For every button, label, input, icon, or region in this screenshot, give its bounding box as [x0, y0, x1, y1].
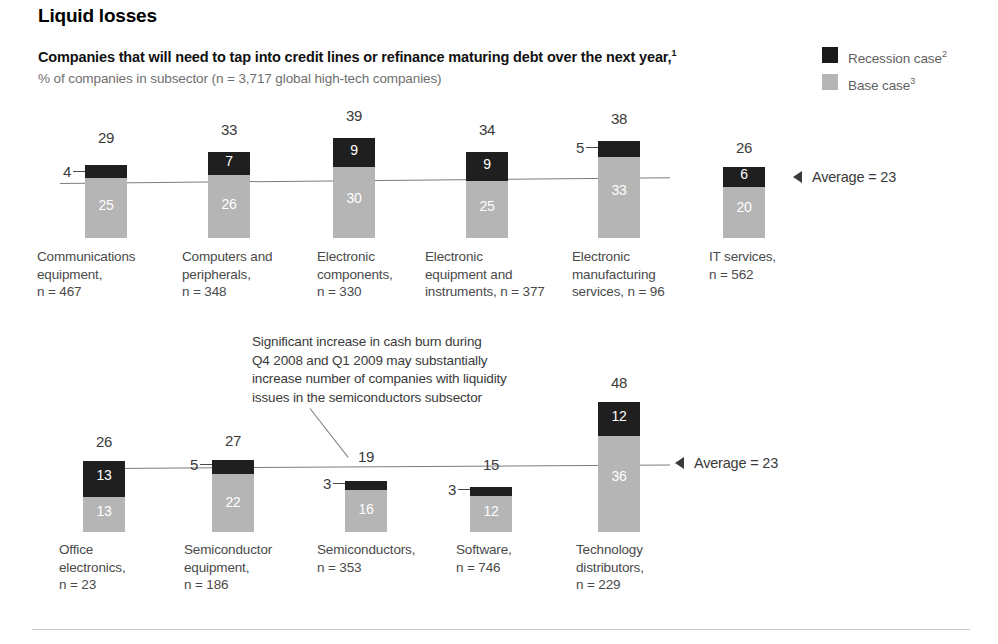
bar-2-category-line-3: n = 348 [182, 283, 312, 301]
chart-headline-text: Companies that will need to tap into cre… [38, 49, 671, 65]
bar-9-category-label: Semiconductors, n = 353 [317, 541, 447, 576]
bar-10-recession-value: 3 [430, 481, 456, 498]
bar-10-category-line-1: Software, [456, 541, 576, 559]
bar-9-category-line-1: Semiconductors, [317, 541, 447, 559]
bar-11-base-value: 36 [598, 468, 640, 484]
bar-11-category-line-1: Technology [576, 541, 706, 559]
bar-9-base-value: 16 [345, 501, 387, 517]
bar-5-category-label: Electronic manufacturing services, n = 9… [572, 248, 712, 301]
legend-swatch-recession-icon [822, 47, 838, 63]
bar-1-base-value: 25 [85, 197, 127, 213]
chart-legend: Recession case2 Base case3 [822, 47, 947, 100]
bar-5-total: 38 [589, 110, 649, 127]
average-label-2: Average = 23 [694, 455, 778, 471]
bar-11-recession-value: 12 [598, 408, 640, 424]
bar-6-category-label: IT services, n = 562 [709, 248, 829, 283]
bar-1-leader-line [73, 171, 85, 172]
average-arrow-1-icon [793, 171, 802, 183]
bar-5-recession-value: 5 [558, 139, 584, 156]
bar-7-base-value: 13 [83, 503, 125, 519]
bar-3-total: 39 [324, 107, 384, 124]
legend-item-base: Base case3 [822, 74, 947, 93]
exhibit-title: Liquid losses [38, 5, 157, 27]
bar-8-recession-value: 5 [172, 456, 198, 473]
bar-11-total: 48 [589, 374, 649, 391]
bar-8-base-value: 22 [212, 494, 254, 510]
bar-4-category-line-2: equipment and [425, 266, 585, 284]
bar-7-recession-value: 13 [83, 467, 125, 483]
bar-7-category-line-1: Office [59, 541, 179, 559]
bar-10-category-label: Software, n = 746 [456, 541, 576, 576]
callout-line-1: Significant increase in cash burn during [252, 333, 562, 352]
bar-7-category-line-3: n = 23 [59, 576, 179, 594]
bar-6-recession-value: 6 [723, 166, 765, 182]
bar-8-category-line-2: equipment, [184, 559, 314, 577]
callout-line-2: Q4 2008 and Q1 2009 may substantially [252, 352, 562, 371]
bar-5-category-line-2: manufacturing [572, 266, 712, 284]
callout-line-3: increase number of companies with liquid… [252, 370, 562, 389]
bottom-divider [32, 629, 970, 630]
bar-11-category-line-3: n = 229 [576, 576, 706, 594]
bar-4-recession-value: 9 [466, 156, 508, 172]
bar-5-category-line-1: Electronic [572, 248, 712, 266]
bar-2-category-label: Computers and peripherals, n = 348 [182, 248, 312, 301]
average-arrow-2-icon [675, 457, 684, 469]
legend-swatch-base-icon [822, 74, 838, 90]
bar-4-total: 34 [457, 121, 517, 138]
bar-10-segment-recession [470, 487, 512, 496]
bar-10-base-value: 12 [470, 503, 512, 519]
bar-2-total: 33 [199, 121, 259, 138]
callout-line-4: issues in the semiconductors subsector [252, 389, 562, 408]
bar-5-category-line-3: services, n = 96 [572, 283, 712, 301]
bar-11-category-line-2: distributors, [576, 559, 706, 577]
chart-headline: Companies that will need to tap into cre… [38, 48, 676, 65]
chart-headline-footnote: 1 [671, 48, 676, 58]
bar-2-category-line-1: Computers and [182, 248, 312, 266]
bar-4-category-label: Electronic equipment and instruments, n … [425, 248, 585, 301]
bar-6-total: 26 [714, 139, 774, 156]
bar-7-category-label: Office electronics, n = 23 [59, 541, 179, 594]
bar-9-leader-line [333, 483, 345, 484]
bar-1-category-label: Communications equipment, n = 467 [37, 248, 167, 301]
bar-9-category-line-2: n = 353 [317, 559, 447, 577]
legend-label-recession-footnote: 2 [942, 49, 947, 59]
average-label-1: Average = 23 [812, 169, 896, 185]
bar-8-category-line-3: n = 186 [184, 576, 314, 594]
bar-10-total: 15 [461, 456, 521, 473]
bar-11-segment-base [598, 436, 640, 532]
bar-5-segment-recession [598, 141, 640, 157]
bar-8-total: 27 [203, 432, 263, 449]
bar-10-category-line-2: n = 746 [456, 559, 576, 577]
bar-1-category-line-2: equipment, [37, 266, 167, 284]
legend-label-base: Base case3 [848, 74, 915, 93]
bar-8-category-line-1: Semiconductor [184, 541, 314, 559]
chart-subhead: % of companies in subsector (n = 3,717 g… [38, 71, 442, 86]
bar-6-base-value: 20 [723, 199, 765, 215]
exhibit-canvas: Liquid losses Companies that will need t… [0, 0, 998, 644]
bar-8-segment-recession [212, 460, 254, 474]
legend-label-base-text: Base case [848, 77, 910, 92]
legend-label-recession-text: Recession case [848, 51, 942, 66]
bar-5-base-value: 33 [598, 182, 640, 198]
bar-8-leader-line [200, 464, 212, 465]
bar-2-recession-value: 7 [208, 153, 250, 169]
legend-item-recession: Recession case2 [822, 47, 947, 66]
bar-3-base-value: 30 [333, 190, 375, 206]
bar-7-total: 26 [74, 433, 134, 450]
bar-1-recession-value: 4 [45, 163, 71, 180]
bar-4-base-value: 25 [466, 198, 508, 214]
bar-1-segment-recession [85, 165, 127, 178]
legend-label-base-footnote: 3 [910, 76, 915, 86]
bar-total-1: 29 [76, 129, 136, 146]
legend-label-recession: Recession case2 [848, 47, 947, 66]
bar-1-category-line-1: Communications [37, 248, 167, 266]
bar-5-leader-line [586, 147, 598, 148]
bar-9-recession-value: 3 [305, 475, 331, 492]
bar-6-category-line-1: IT services, [709, 248, 829, 266]
bar-4-category-line-3: instruments, n = 377 [425, 283, 585, 301]
bar-7-category-line-2: electronics, [59, 559, 179, 577]
bar-8-category-label: Semiconductor equipment, n = 186 [184, 541, 314, 594]
bar-9-segment-recession [345, 481, 387, 490]
callout-annotation: Significant increase in cash burn during… [252, 333, 562, 407]
bar-2-base-value: 26 [208, 196, 250, 212]
